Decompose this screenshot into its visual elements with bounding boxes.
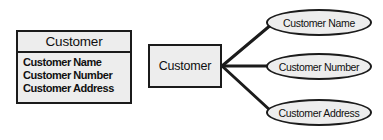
er-attribute-ellipse: Customer Number [266,53,372,80]
diagram-canvas: Customer Customer Name Customer Number C… [0,0,383,140]
entity-table-body: Customer Name Customer Number Customer A… [18,53,130,95]
table-row: Customer Number [23,69,130,82]
connector-line-customer-address [222,66,272,112]
entity-table-header: Customer [18,32,130,53]
connector-line-customer-name [222,24,272,66]
entity-table: Customer Customer Name Customer Number C… [16,30,132,104]
er-attribute-ellipse: Customer Name [266,9,372,36]
table-row: Customer Address [23,82,130,95]
er-attribute-ellipse: Customer Address [266,99,372,126]
table-row: Customer Name [23,56,130,69]
er-entity-customer: Customer [148,44,222,88]
